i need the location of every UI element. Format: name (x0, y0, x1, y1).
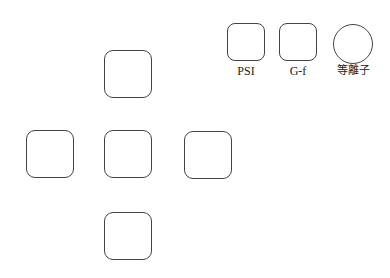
legend-psi-square-icon (227, 23, 265, 61)
legend-gf-label: G-f (274, 64, 322, 78)
legend-plasma-label: 等離子 (326, 64, 380, 78)
cross-box-top (104, 50, 152, 98)
legend-gf-square-icon (279, 23, 317, 61)
legend-plasma-circle-icon (333, 24, 373, 64)
cross-box-bottom (104, 212, 152, 260)
cross-box-center (104, 130, 152, 178)
cross-box-left (26, 130, 74, 178)
legend-psi-label: PSI (222, 64, 270, 78)
cross-box-right (184, 131, 232, 179)
